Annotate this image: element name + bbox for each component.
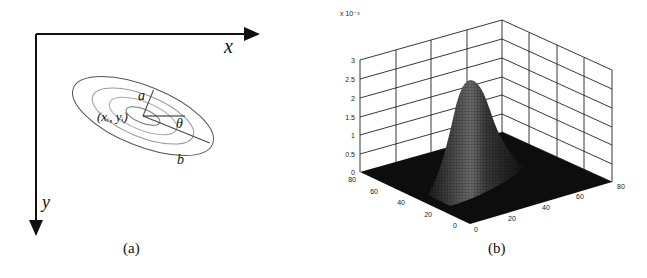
left-axis-tick-1: 20 xyxy=(424,211,432,218)
right-axis-tick-0: 0 xyxy=(474,226,478,233)
z-tick-0: 0 xyxy=(351,169,355,176)
right-axis-tick-1: 20 xyxy=(508,215,516,222)
caption-b: (b) xyxy=(488,240,506,257)
caption-a: (a) xyxy=(123,240,140,257)
right-axis-tick-4: 80 xyxy=(617,183,625,190)
z-tick-3: 1.5 xyxy=(345,114,355,121)
z-tick-1: 0.5 xyxy=(345,151,355,158)
z-tick-4: 2 xyxy=(351,95,355,102)
panel-b: x 10⁻³ 0 0.5 1 1.5 2 2.5 3 0 20 40 60 80… xyxy=(340,10,625,257)
left-axis-tick-3: 60 xyxy=(370,188,378,195)
semi-axis-b-label: b xyxy=(177,152,184,167)
y-axis-label: y xyxy=(40,192,50,212)
right-axis-tick-3: 60 xyxy=(576,193,584,200)
z-tick-6: 3 xyxy=(351,57,355,64)
left-axis-tick-0: 0 xyxy=(453,222,457,229)
center-label: (xᵢ, yᵢ) xyxy=(97,109,128,124)
left-axis-tick-4: 80 xyxy=(348,176,356,183)
figure-canvas: x y a θ (xᵢ, yᵢ) b (a) xyxy=(0,0,647,278)
left-axis-tick-2: 40 xyxy=(397,199,405,206)
right-axis-tick-2: 40 xyxy=(542,204,550,211)
z-scale-label: x 10⁻³ xyxy=(340,10,360,17)
x-axis-arrow-icon xyxy=(244,27,260,41)
y-axis-arrow-icon xyxy=(29,220,43,236)
angle-theta-label: θ xyxy=(176,116,183,131)
x-axis-label: x xyxy=(223,35,233,57)
z-tick-2: 1 xyxy=(351,132,355,139)
semi-axis-a-label: a xyxy=(138,88,145,103)
z-tick-5: 2.5 xyxy=(345,76,355,83)
panel-a: x y a θ (xᵢ, yᵢ) b (a) xyxy=(29,27,260,257)
